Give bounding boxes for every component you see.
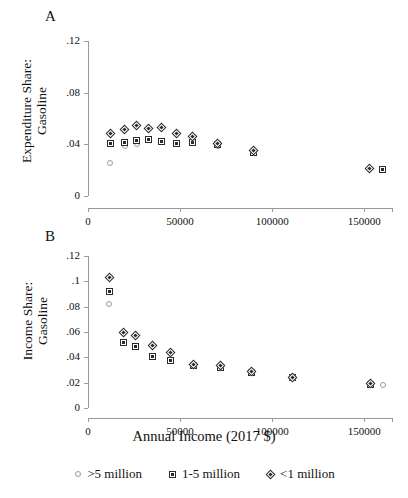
y-axis-tick <box>84 93 88 94</box>
x-axis-tick <box>364 418 365 422</box>
data-point-circle-icon <box>106 301 112 307</box>
data-point-circle-icon <box>107 160 113 166</box>
data-point-diamond-icon <box>132 120 142 130</box>
data-point-square-icon <box>107 140 114 147</box>
y-axis-tick <box>84 332 88 333</box>
y-axis-tick-label: .04 <box>44 137 80 149</box>
y-axis-tick <box>84 256 88 257</box>
data-point-diamond-icon <box>148 341 158 351</box>
y-axis-tick-label: .08 <box>44 300 80 312</box>
y-axis-tick <box>84 307 88 308</box>
data-point-circle-icon <box>380 382 386 388</box>
panel-a-plot-area: 0.04.08.12050000100000150000 <box>0 0 408 228</box>
legend-item-label: 1-5 million <box>182 466 240 482</box>
data-point-diamond-icon <box>171 128 181 138</box>
data-point-diamond-icon <box>365 164 375 174</box>
data-point-diamond-icon <box>104 272 114 282</box>
x-axis-tick <box>364 208 365 212</box>
x-axis-tick <box>88 418 89 422</box>
legend-item-label: <1 million <box>280 466 335 482</box>
data-point-square-icon <box>121 139 128 146</box>
data-point-diamond-icon <box>166 348 176 358</box>
x-axis-title: Annual Income (2017 $) <box>0 428 408 445</box>
panel-b: B Income Share: Gasoline 0.02.04.06.08.1… <box>0 228 408 428</box>
y-axis-tick <box>84 196 88 197</box>
y-axis-tick-label: .1 <box>44 274 80 286</box>
y-axis-tick-label: .02 <box>44 376 80 388</box>
x-axis-tick-label: 100000 <box>237 215 307 227</box>
x-axis-tick <box>88 208 89 212</box>
x-axis-end-cap <box>392 208 393 212</box>
y-axis-tick <box>84 144 88 145</box>
y-axis-tick <box>84 357 88 358</box>
data-point-diamond-icon <box>144 124 154 134</box>
circle-icon <box>75 471 81 477</box>
data-point-square-icon <box>167 357 174 364</box>
data-point-square-icon <box>106 288 113 295</box>
x-axis-end-cap <box>392 418 393 422</box>
panel-a: A Expenditure Share: Gasoline 0.04.08.12… <box>0 0 408 228</box>
data-point-diamond-icon <box>157 123 167 133</box>
data-point-diamond-icon <box>120 125 130 135</box>
data-point-square-icon <box>158 138 165 145</box>
panel-b-plot-area: 0.02.04.06.08.1.12050000100000150000 <box>0 228 408 428</box>
x-axis-spine <box>88 208 392 209</box>
y-axis-tick-label: 0 <box>44 401 80 413</box>
x-axis-tick <box>272 418 273 422</box>
data-point-square-icon <box>149 353 156 360</box>
x-axis-tick-label: 0 <box>53 215 123 227</box>
y-axis-tick-label: .04 <box>44 350 80 362</box>
x-axis-tick <box>180 208 181 212</box>
y-axis-tick <box>84 41 88 42</box>
data-point-square-icon <box>132 343 139 350</box>
y-axis-tick <box>84 408 88 409</box>
data-point-square-icon <box>145 136 152 143</box>
y-axis-tick-label: .06 <box>44 325 80 337</box>
y-axis-tick <box>84 383 88 384</box>
x-axis-tick-label: 150000 <box>329 215 399 227</box>
x-axis-spine <box>88 418 392 419</box>
y-axis-spine <box>88 256 89 408</box>
y-axis-tick-label: .12 <box>44 34 80 46</box>
y-axis-spine <box>88 41 89 196</box>
legend-item: 1-5 million <box>168 466 240 482</box>
x-axis-tick <box>272 208 273 212</box>
data-point-square-icon <box>173 140 180 147</box>
square-icon <box>169 471 176 478</box>
data-point-diamond-icon <box>105 128 115 138</box>
data-point-diamond-icon <box>131 330 141 340</box>
y-axis-tick-label: .12 <box>44 249 80 261</box>
x-axis-tick-label: 50000 <box>145 215 215 227</box>
y-axis-tick-label: .08 <box>44 86 80 98</box>
data-point-square-icon <box>120 339 127 346</box>
y-axis-tick-label: 0 <box>44 189 80 201</box>
legend-item-label: >5 million <box>87 466 142 482</box>
data-point-diamond-icon <box>118 327 128 337</box>
diamond-icon <box>266 469 276 479</box>
x-axis-tick <box>180 418 181 422</box>
y-axis-tick <box>84 281 88 282</box>
legend-item: >5 million <box>73 466 142 482</box>
legend-item: <1 million <box>266 466 335 482</box>
legend: >5 million1-5 million<1 million <box>0 466 408 482</box>
data-point-square-icon <box>379 166 386 173</box>
data-point-square-icon <box>133 137 140 144</box>
